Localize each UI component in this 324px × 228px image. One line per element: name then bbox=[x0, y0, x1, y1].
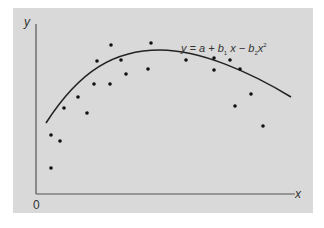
data-point bbox=[124, 72, 128, 76]
data-point bbox=[149, 41, 153, 45]
data-point bbox=[233, 104, 237, 108]
data-point bbox=[62, 106, 66, 110]
fit-curve bbox=[46, 50, 291, 123]
data-point bbox=[108, 82, 112, 86]
data-point bbox=[146, 67, 150, 71]
data-point bbox=[119, 58, 123, 62]
data-point bbox=[212, 68, 216, 72]
data-point bbox=[109, 43, 113, 47]
data-point bbox=[92, 82, 96, 86]
data-points bbox=[49, 41, 265, 170]
equation-annotation: y = a + b1 x − b2x2 bbox=[181, 39, 267, 59]
eq-plus: + bbox=[205, 42, 218, 54]
data-point bbox=[76, 95, 80, 99]
eq-equals: = bbox=[187, 42, 200, 54]
origin-label: 0 bbox=[33, 199, 40, 211]
y-axis-label: y bbox=[24, 16, 30, 28]
data-point bbox=[58, 139, 62, 143]
data-point bbox=[85, 111, 89, 115]
scatter-plot bbox=[0, 0, 324, 228]
eq-sup: 2 bbox=[263, 42, 266, 48]
eq-minus: − bbox=[236, 42, 249, 54]
data-point bbox=[49, 166, 53, 170]
data-point bbox=[49, 133, 53, 137]
data-point bbox=[261, 124, 265, 128]
data-point bbox=[249, 92, 253, 96]
x-axis-label: x bbox=[295, 188, 301, 200]
data-point bbox=[95, 59, 99, 63]
eq-x: x bbox=[227, 42, 236, 54]
data-point bbox=[238, 67, 242, 71]
